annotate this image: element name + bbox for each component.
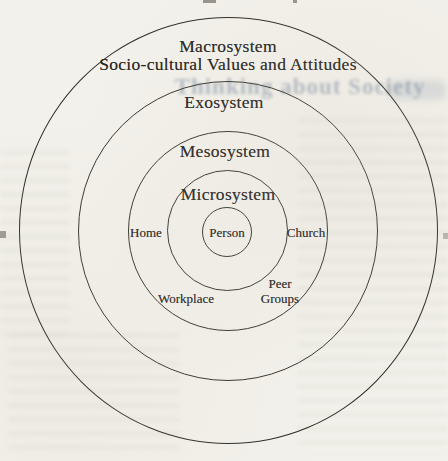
microsystem-label: Microsystem [28, 184, 428, 205]
page-edge-mark [0, 231, 6, 238]
context-label-workplace: Workplace [146, 291, 226, 306]
cropped-text-fragment [203, 0, 216, 3]
exosystem-label: Exosystem [24, 92, 424, 113]
context-label-home: Home [116, 225, 176, 240]
mesosystem-label: Mesosystem [25, 141, 425, 162]
scanned-page: Thinking about Society Macrosystem Socio… [0, 0, 448, 461]
person-label: Person [177, 225, 277, 240]
context-label-peer-groups: Peer Groups [254, 276, 306, 306]
context-label-church: Church [276, 225, 336, 240]
page-edge-mark [443, 233, 448, 239]
macrosystem-subtitle: Socio-cultural Values and Attitudes [28, 54, 428, 75]
cropped-text-fragment [293, 0, 297, 3]
